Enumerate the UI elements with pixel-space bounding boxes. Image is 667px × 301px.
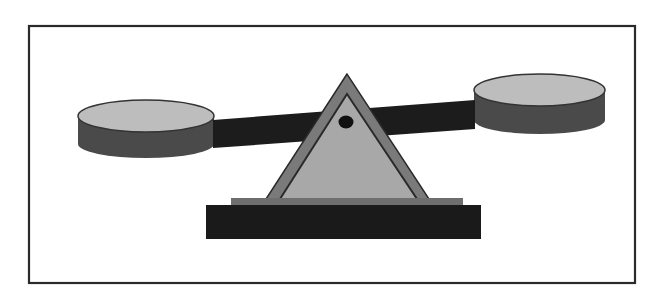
balance-scale-figure [0,0,667,301]
base-block [206,205,481,239]
left-pan [78,100,214,158]
right-pan [474,74,605,134]
pivot-dot [339,116,354,129]
base-plate [231,198,463,206]
